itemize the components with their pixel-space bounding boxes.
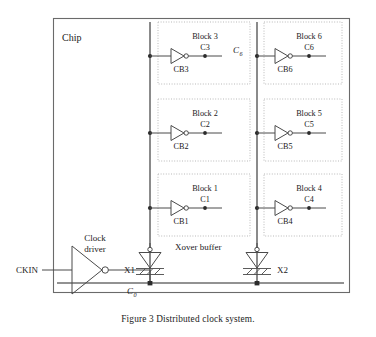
block-block1-title: Block 1	[192, 184, 218, 193]
block-block3-clock-node	[203, 54, 207, 58]
ckin-label: CKIN	[16, 265, 38, 275]
block-block1-clock-node	[203, 206, 207, 210]
block-block4-buffer-label: CB4	[277, 217, 292, 226]
right-bus-net-label-subscript: 6	[239, 50, 243, 57]
block-block3-clock-net-label: C3	[200, 43, 210, 52]
block-block5-buffer-symbol	[275, 126, 288, 141]
block-block6-title: Block 6	[296, 32, 322, 41]
clock-driver-label-line1: Clock	[84, 233, 106, 243]
block-block1-buffer-label: CB1	[173, 217, 188, 226]
block-block6-buffer-label: CB6	[277, 65, 292, 74]
block-block5-clock-node	[307, 131, 311, 135]
block-block1-buffer-symbol	[171, 201, 184, 216]
block-block3-buffer-symbol	[171, 49, 184, 64]
block-block6-clock-node	[307, 54, 311, 58]
block-block2: Block 2 C2 CB2	[148, 99, 250, 161]
block-block3-buffer-label: CB3	[173, 65, 188, 74]
block-block6-clock-net-label: C6	[304, 43, 314, 52]
block-block5-clock-net-label: C5	[304, 120, 314, 129]
clock-driver-label-line2: driver	[84, 244, 106, 254]
distributed-clock-system-diagram: Chip CKIN Clock driver C 0	[0, 0, 376, 337]
block-block6-buffer-symbol	[275, 49, 288, 64]
block-block6: Block 6 C6 CB6	[255, 22, 342, 84]
block-block4-buffer-symbol	[275, 201, 288, 216]
right-bus-net-label: C 6	[233, 45, 243, 57]
block-block1-clock-net-label: C1	[200, 195, 210, 204]
block-block2-buffer-label: CB2	[173, 142, 188, 151]
block-block1: Block 1 C1 CB1	[148, 174, 250, 236]
figure-container: Chip CKIN Clock driver C 0	[0, 0, 376, 337]
block-block5: Block 5 C5 CB5	[255, 99, 342, 161]
block-block2-title: Block 2	[192, 109, 218, 118]
root-net-label-subscript: 0	[134, 291, 138, 298]
block-block5-title: Block 5	[296, 109, 322, 118]
block-block4-clock-node	[307, 206, 311, 210]
block-block5-buffer-label: CB5	[277, 142, 292, 151]
xover-buffer-x1-label: X1	[124, 265, 135, 275]
block-block3-title: Block 3	[192, 32, 218, 41]
block-block4-title: Block 4	[296, 184, 322, 193]
xover-buffer-x2-label: X2	[277, 265, 288, 275]
block-block2-clock-node	[203, 131, 207, 135]
block-block2-buffer-symbol	[171, 126, 184, 141]
figure-caption: Figure 3 Distributed clock system.	[0, 314, 376, 324]
chip-label: Chip	[62, 32, 81, 43]
block-block2-clock-net-label: C2	[200, 120, 210, 129]
root-net-label: C 0	[127, 286, 138, 298]
block-block4: Block 4 C4 CB4	[255, 174, 342, 236]
block-block4-clock-net-label: C4	[304, 195, 314, 204]
xover-buffer-caption: Xover buffer	[175, 242, 222, 252]
